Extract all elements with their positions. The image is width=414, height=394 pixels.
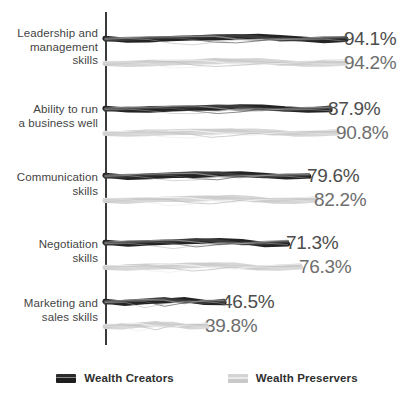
bar-stroke-group [105,317,211,335]
bar-stroke-group [105,30,350,48]
bar-wealth-preservers-ability [105,124,341,140]
bar-wealth-preservers-communication [105,191,319,207]
bar-stroke-group [105,191,319,209]
plot-area: Leadership and management skills 94.1% 9… [0,0,414,352]
value-label-creators-marketing: 46.5% [222,292,274,311]
bar-wealth-creators-negotiation [105,234,292,250]
bar-stroke-group [105,234,292,252]
bar-stroke-group [105,54,350,72]
category-label-communication: Communication skills [0,171,98,198]
value-label-creators-communication: 79.6% [307,166,359,185]
value-label-creators-leadership: 94.1% [344,29,396,48]
bar-stroke-group [105,293,228,311]
bar-stroke-group [105,167,313,185]
category-label-marketing: Marketing and sales skills [0,297,98,324]
dark-bar-swatch-icon [56,374,76,383]
legend-item-wealth-creators[interactable]: Wealth Creators [56,372,173,384]
value-label-preservers-leadership: 94.2% [344,53,396,72]
bar-wealth-creators-marketing [105,293,228,309]
legend-label-wealth-preservers: Wealth Preservers [256,372,358,384]
value-label-preservers-communication: 82.2% [314,190,366,209]
bar-wealth-creators-leadership [105,30,350,46]
value-label-preservers-negotiation: 76.3% [299,257,351,276]
bar-stroke-group [105,124,341,142]
chart-legend: Wealth Creators Wealth Preservers [0,366,414,390]
value-label-creators-negotiation: 71.3% [286,233,338,252]
bar-wealth-creators-ability [105,100,334,116]
value-label-preservers-marketing: 39.8% [205,316,257,335]
value-label-preservers-ability: 90.8% [336,123,388,142]
bar-wealth-creators-communication [105,167,313,183]
light-bar-swatch-icon [228,374,248,383]
bar-stroke-group [105,100,334,118]
bar-wealth-preservers-leadership [105,54,350,70]
value-label-creators-ability: 87.9% [328,99,380,118]
category-label-ability-to-run-business: Ability to run a business well [0,103,98,130]
paired-bar-chart: Leadership and management skills 94.1% 9… [0,0,414,394]
legend-label-wealth-creators: Wealth Creators [84,372,173,384]
bar-stroke-group [105,258,304,276]
category-label-negotiation: Negotiation skills [0,238,98,265]
category-label-leadership: Leadership and management skills [0,27,98,68]
bar-wealth-preservers-negotiation [105,258,304,274]
bar-wealth-preservers-marketing [105,317,211,333]
legend-item-wealth-preservers[interactable]: Wealth Preservers [228,372,358,384]
